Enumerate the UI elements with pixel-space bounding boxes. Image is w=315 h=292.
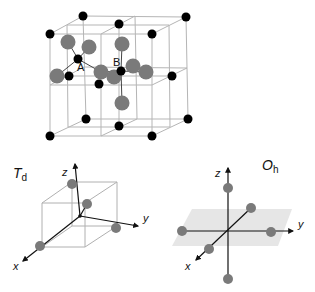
oh-equatorial-plane	[172, 209, 292, 246]
site-label-a: A	[77, 61, 85, 73]
anion-atom	[94, 65, 109, 80]
oh-title: Oh	[262, 157, 278, 175]
td-title: Td	[13, 165, 27, 183]
oh-y-label: y	[297, 218, 305, 230]
td-panel: Td z y x	[12, 164, 150, 272]
oh-panel: Oh z y x	[172, 157, 305, 284]
anion-atom	[82, 40, 97, 55]
oh-x-label: x	[184, 260, 191, 272]
anion-atom	[50, 69, 65, 84]
crystal-structure-diagram: A B Td	[0, 0, 315, 292]
oh-z-label: z	[214, 167, 221, 179]
anion-atom	[126, 59, 141, 74]
td-x-label: x	[12, 260, 19, 272]
anion-atom	[139, 65, 154, 80]
anion-atom	[61, 35, 76, 50]
site-label-b: B	[113, 56, 120, 68]
td-y-label: y	[142, 212, 150, 224]
anion-atom	[115, 96, 130, 111]
td-z-label: z	[61, 166, 68, 178]
anion-atom	[115, 37, 130, 52]
